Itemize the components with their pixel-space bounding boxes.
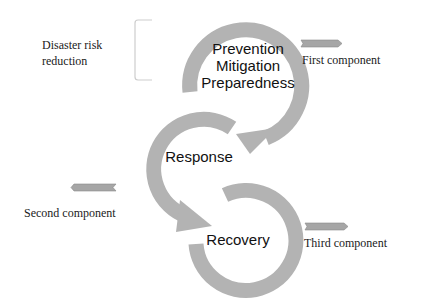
third-component-arrow-icon (305, 223, 348, 230)
drr-label-line-2: reduction (42, 53, 102, 69)
top-phase-label: Prevention Mitigation Preparedness (188, 40, 308, 91)
phase-recovery: Recovery (193, 231, 283, 248)
second-component-label: Second component (24, 205, 116, 221)
drr-label: Disaster risk reduction (42, 37, 102, 69)
drr-label-line-1: Disaster risk (42, 37, 102, 53)
phase-preparedness: Preparedness (188, 74, 308, 91)
phase-mitigation: Mitigation (188, 57, 308, 74)
second-component-arrow-icon (71, 184, 116, 191)
middle-cycle-arrow-icon (154, 119, 232, 232)
phase-prevention: Prevention (188, 40, 308, 57)
disaster-management-diagram: Disaster risk reduction First component … (0, 0, 422, 308)
third-component-label: Third component (304, 235, 387, 251)
phase-response: Response (154, 148, 244, 165)
first-component-label: First component (302, 52, 380, 68)
bracket-shape (135, 20, 152, 80)
